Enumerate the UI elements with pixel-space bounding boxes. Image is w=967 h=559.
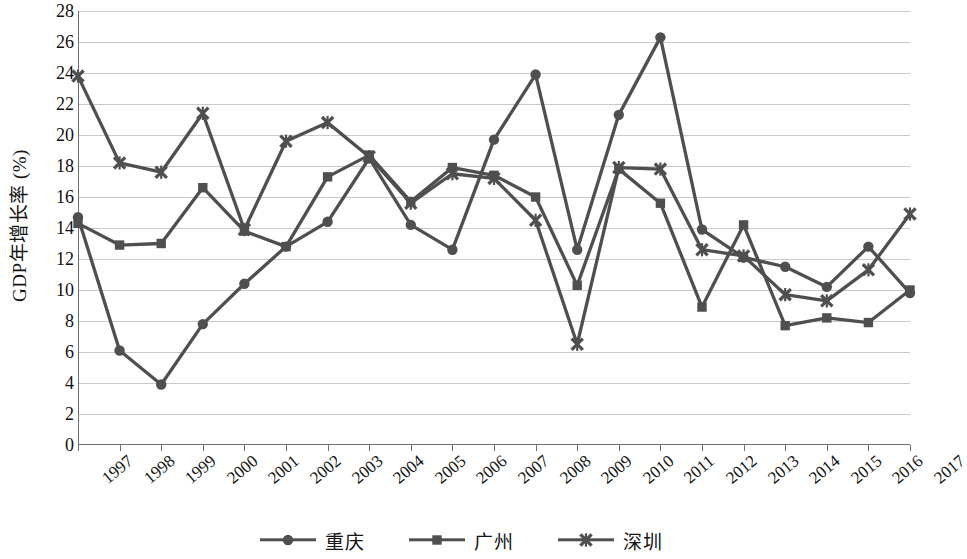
x-tick-mark <box>411 445 412 451</box>
x-tick-mark <box>78 445 79 451</box>
x-tick-mark <box>120 445 121 451</box>
data-point-circle <box>572 245 582 255</box>
x-tick-mark <box>827 445 828 451</box>
data-point-square <box>323 172 332 181</box>
x-tick-label: 2014 <box>806 452 843 487</box>
data-point-x-cross <box>197 107 208 120</box>
x-tick-label: 2003 <box>349 452 386 487</box>
y-tick-label: 16 <box>34 188 74 206</box>
data-point-square <box>115 240 124 249</box>
y-tick-label: 14 <box>34 219 74 237</box>
x-tick-mark <box>785 445 786 451</box>
data-point-circle <box>655 32 665 42</box>
y-tick-label: 6 <box>34 343 74 361</box>
legend-marker-square-icon <box>409 532 465 548</box>
series-3 <box>72 70 915 351</box>
legend-item-2[interactable]: 广州 <box>409 527 514 554</box>
y-tick-label: 4 <box>34 374 74 392</box>
x-tick-label: 2009 <box>598 452 635 487</box>
chart-legend: 重庆广州深圳 <box>0 524 923 556</box>
data-point-circle <box>863 241 873 251</box>
x-tick-label: 2005 <box>432 452 469 487</box>
y-tick-label: 2 <box>34 405 74 423</box>
data-point-circle <box>697 224 707 234</box>
x-tick-mark <box>328 445 329 451</box>
x-tick-label: 2008 <box>557 452 594 487</box>
x-tick-mark <box>203 445 204 451</box>
x-tick-label: 2016 <box>889 452 926 487</box>
data-point-circle <box>114 345 124 355</box>
data-point-circle <box>822 282 832 292</box>
data-point-square <box>281 242 290 251</box>
x-tick-label: 1997 <box>99 452 136 487</box>
y-axis-title: GDP年增长率 (%) <box>2 0 32 450</box>
x-tick-mark <box>244 445 245 451</box>
y-tick-label: 28 <box>34 2 74 20</box>
y-tick-label: 22 <box>34 95 74 113</box>
data-point-square <box>864 318 873 327</box>
series-line <box>78 37 910 384</box>
series-1 <box>73 32 915 390</box>
data-point-square <box>157 239 166 248</box>
x-tick-mark <box>702 445 703 451</box>
x-tick-mark <box>494 445 495 451</box>
x-tick-mark <box>369 445 370 451</box>
x-tick-mark <box>452 445 453 451</box>
data-point-circle <box>239 279 249 289</box>
data-point-circle <box>156 379 166 389</box>
legend-label: 深圳 <box>623 527 663 554</box>
data-point-x-cross <box>904 207 915 220</box>
data-point-x-cross <box>863 263 874 276</box>
data-point-square <box>432 535 441 544</box>
y-tick-label: 24 <box>34 64 74 82</box>
x-tick-mark <box>536 445 537 451</box>
data-point-circle <box>322 217 332 227</box>
x-tick-label: 2001 <box>265 452 302 487</box>
x-tick-label: 2004 <box>390 452 427 487</box>
data-point-square <box>739 220 748 229</box>
x-tick-mark <box>161 445 162 451</box>
x-tick-mark <box>286 445 287 451</box>
data-point-x-cross <box>530 214 541 227</box>
x-tick-label: 2012 <box>723 452 760 487</box>
x-tick-label: 1998 <box>141 452 178 487</box>
data-point-circle <box>614 110 624 120</box>
x-tick-label: 2017 <box>931 452 967 487</box>
data-point-circle <box>283 535 293 545</box>
x-tick-mark <box>619 445 620 451</box>
data-point-square <box>656 199 665 208</box>
y-tick-label: 18 <box>34 157 74 175</box>
x-tick-label: 2013 <box>765 452 802 487</box>
data-point-square <box>198 183 207 192</box>
data-point-square <box>822 313 831 322</box>
x-tick-label: 2011 <box>681 452 717 486</box>
data-point-circle <box>489 134 499 144</box>
data-point-circle <box>447 245 457 255</box>
legend-marker-circle-icon <box>260 532 316 548</box>
data-point-circle <box>406 220 416 230</box>
y-tick-label: 12 <box>34 250 74 268</box>
data-point-square <box>905 285 914 294</box>
x-tick-label: 2007 <box>515 452 552 487</box>
data-point-circle <box>780 262 790 272</box>
y-axis-tick-labels: 2826242220181614121086420 <box>34 0 74 460</box>
legend-item-3[interactable]: 深圳 <box>558 527 663 554</box>
data-point-square <box>573 281 582 290</box>
legend-item-1[interactable]: 重庆 <box>260 527 365 554</box>
x-tick-label: 1999 <box>182 452 219 487</box>
x-tick-mark <box>868 445 869 451</box>
data-point-x-cross <box>580 533 591 546</box>
x-tick-mark <box>577 445 578 451</box>
y-tick-label: 20 <box>34 126 74 144</box>
data-point-x-cross <box>72 70 83 83</box>
data-point-circle <box>198 319 208 329</box>
plot-area <box>78 11 910 445</box>
x-tick-label: 2006 <box>473 452 510 487</box>
legend-label: 广州 <box>474 527 514 554</box>
y-tick-label: 26 <box>34 33 74 51</box>
y-axis-title-label: GDP年增长率 (%) <box>4 149 31 302</box>
x-tick-mark <box>910 445 911 451</box>
data-point-square <box>697 302 706 311</box>
data-point-circle <box>530 69 540 79</box>
